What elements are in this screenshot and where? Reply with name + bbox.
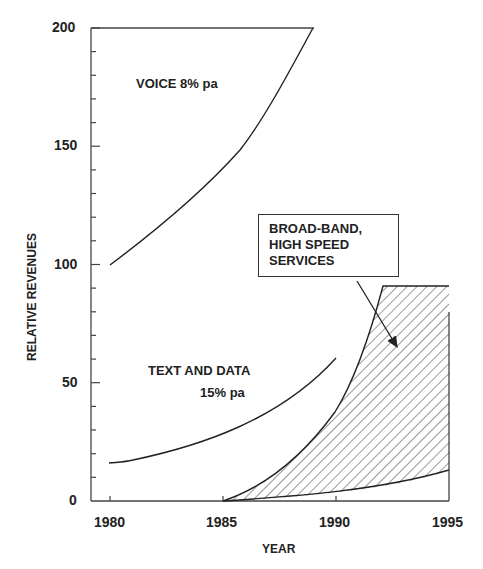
callout-line-2: HIGH SPEED [269,237,388,253]
y-axis-title: RELATIVE REVENUES [25,227,39,367]
chart-canvas [0,0,483,569]
y-tick-200: 200 [52,19,75,35]
x-tick-1985: 1985 [206,514,237,530]
broadband-area [223,286,449,501]
text-data-rate-label: 15% pa [200,385,245,400]
x-tick-1990: 1990 [319,514,350,530]
callout-line-1: BROAD-BAND, [269,221,388,237]
x-tick-1980: 1980 [94,514,125,530]
text-data-label: TEXT AND DATA [148,363,250,378]
y-tick-150: 150 [54,137,77,153]
y-axis-ticks [91,28,100,477]
y-tick-50: 50 [62,374,78,390]
callout-line-3: SERVICES [269,253,388,269]
x-axis-title: YEAR [262,542,295,556]
broadband-callout-box: BROAD-BAND, HIGH SPEED SERVICES [258,214,399,277]
x-axis-ticks [110,496,336,501]
y-tick-0: 0 [69,492,77,508]
x-tick-1995: 1995 [432,514,463,530]
voice-label: VOICE 8% pa [136,76,218,91]
y-tick-100: 100 [54,256,77,272]
